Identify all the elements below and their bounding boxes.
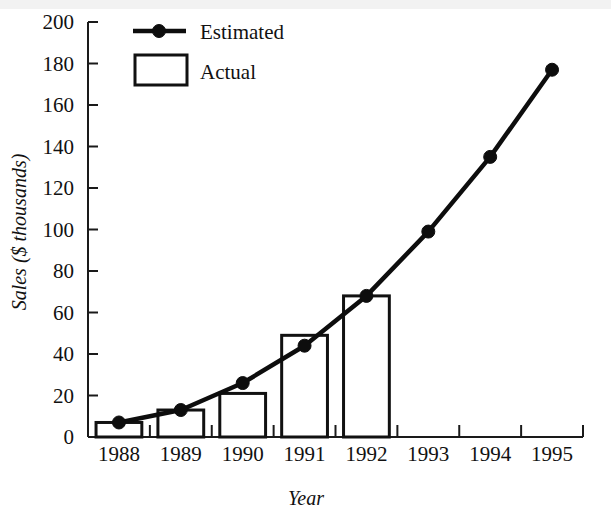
estimated-line-group [112, 63, 558, 429]
y-tick-label: 0 [64, 425, 75, 449]
legend-actual-rect-icon [135, 55, 187, 85]
legend-label-actual: Actual [200, 60, 256, 84]
chart-legend: Estimated Actual [133, 20, 284, 85]
estimated-data-point [298, 339, 311, 352]
legend-item-estimated: Estimated [133, 20, 284, 44]
x-tick-label: 1989 [160, 442, 202, 466]
legend-item-actual: Actual [135, 55, 256, 85]
y-tick-label: 40 [53, 342, 74, 366]
estimated-data-point [236, 377, 249, 390]
y-tick-label: 120 [43, 176, 75, 200]
x-tick-label: 1994 [469, 442, 512, 466]
x-tick-label: 1992 [345, 442, 387, 466]
estimated-series-path [119, 70, 552, 423]
estimated-series-markers [112, 63, 558, 429]
y-tick-label: 180 [43, 52, 75, 76]
y-tick-label: 100 [43, 218, 75, 242]
estimated-data-point [174, 404, 187, 417]
estimated-data-point [546, 63, 559, 76]
actual-bars-group [96, 296, 389, 437]
chart-figure: 020406080100120140160180200 198819891990… [0, 0, 611, 518]
y-axis-title: Sales ($ thousands) [8, 153, 31, 310]
y-tick-label: 200 [43, 10, 75, 34]
y-tick-label: 160 [43, 93, 75, 117]
legend-label-estimated: Estimated [200, 20, 284, 44]
actual-bar [220, 393, 266, 437]
x-tick-label: 1990 [222, 442, 264, 466]
x-tick-label: 1993 [407, 442, 449, 466]
estimated-data-point [112, 416, 125, 429]
x-tick-label: 1995 [531, 442, 573, 466]
y-tick-label: 60 [53, 301, 74, 325]
y-tick-label: 140 [43, 135, 75, 159]
estimated-data-point [484, 150, 497, 163]
estimated-data-point [422, 225, 435, 238]
actual-bar [344, 296, 390, 437]
x-axis-title: Year [288, 487, 324, 509]
y-tick-label: 20 [53, 384, 74, 408]
sales-line-and-bar-chart: 020406080100120140160180200 198819891990… [0, 0, 611, 518]
y-axis-ticks: 020406080100120140160180200 [43, 10, 99, 449]
x-tick-label: 1988 [98, 442, 140, 466]
y-tick-label: 80 [53, 259, 74, 283]
legend-estimated-point-icon [153, 25, 166, 38]
estimated-data-point [360, 289, 373, 302]
x-tick-label: 1991 [284, 442, 326, 466]
x-axis-tick-labels: 19881989199019911992199319941995 [98, 442, 573, 466]
